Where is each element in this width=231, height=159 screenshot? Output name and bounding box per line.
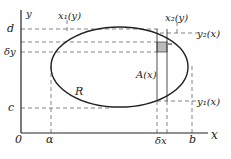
c-label: c [8, 101, 14, 114]
dy-label: δy [4, 46, 16, 57]
x2-curve-label: x₂(y) [165, 12, 188, 23]
double-integral-diagram: y x 0 d δy c α δx b x₁(y) x₂(y) y₂(x) y₁… [0, 0, 231, 159]
x-axis-label: x [211, 128, 218, 142]
alpha-label: α [46, 133, 54, 146]
area-label: A(x) [135, 69, 157, 80]
y-axis-label: y [25, 8, 32, 19]
region-boundary [51, 27, 188, 107]
region-label: R [74, 85, 83, 98]
y1-curve-label: y₁(x) [196, 96, 220, 107]
b-label: b [189, 133, 196, 146]
guide-lines [21, 20, 198, 133]
strip-lines [157, 29, 167, 101]
d-label: d [7, 22, 14, 35]
origin-label: 0 [15, 133, 22, 146]
shaded-element [157, 42, 167, 52]
x1-curve-label: x₁(y) [58, 10, 81, 21]
dx-label: δx [155, 135, 167, 146]
axes [21, 10, 208, 133]
y2-curve-label: y₂(x) [196, 28, 220, 39]
